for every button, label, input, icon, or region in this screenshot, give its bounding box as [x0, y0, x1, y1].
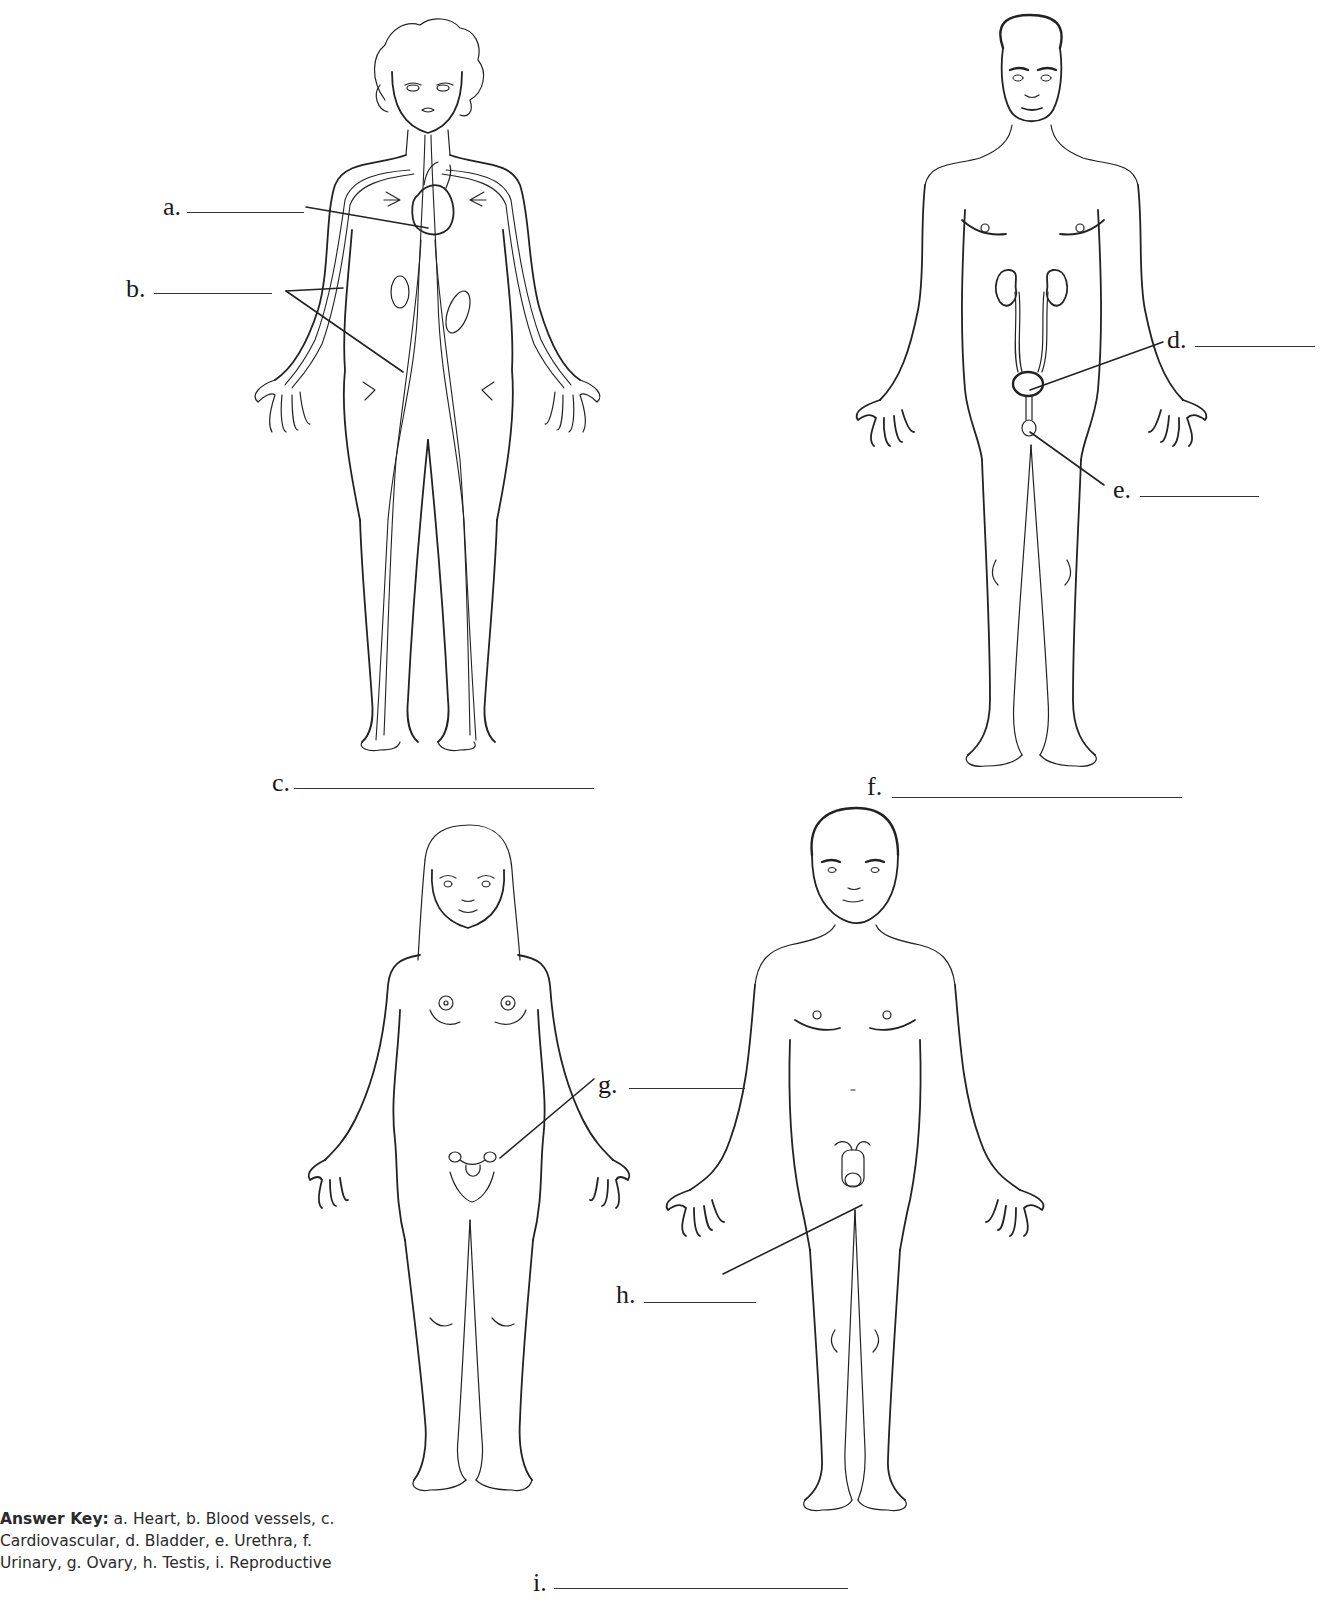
- answer-blank-h[interactable]: [644, 1302, 756, 1303]
- urinary-figure: [857, 15, 1207, 766]
- answer-blank-f[interactable]: [892, 797, 1182, 798]
- male-reproductive-figure: [667, 808, 1044, 1511]
- label-e: e.: [1113, 477, 1131, 503]
- answer-blank-i[interactable]: [554, 1588, 848, 1589]
- label-b: b.: [126, 276, 146, 302]
- cardiovascular-figure: [255, 19, 600, 751]
- answer-blank-e[interactable]: [1140, 496, 1259, 497]
- answer-blank-d[interactable]: [1195, 346, 1315, 347]
- label-a: a.: [163, 194, 181, 220]
- answer-blank-g[interactable]: [629, 1088, 745, 1089]
- label-i: i.: [533, 1570, 547, 1596]
- female-reproductive-figure: [309, 825, 630, 1491]
- label-d: d.: [1167, 327, 1187, 353]
- leader-b1: [286, 288, 343, 291]
- answer-key: Answer Key: a. Heart, b. Blood vessels, …: [0, 1508, 340, 1574]
- label-h: h.: [616, 1282, 636, 1308]
- leader-e: [1030, 432, 1104, 485]
- label-f: f.: [867, 774, 882, 800]
- answer-blank-c[interactable]: [294, 788, 594, 789]
- label-c: c.: [272, 770, 290, 796]
- leader-h: [723, 1205, 862, 1274]
- anatomy-illustrations: [0, 0, 1328, 1611]
- answer-blank-a[interactable]: [187, 212, 304, 213]
- label-g: g.: [598, 1072, 618, 1098]
- leader-d: [1030, 342, 1163, 390]
- answer-key-title: Answer Key:: [0, 1510, 109, 1528]
- leader-g: [500, 1079, 594, 1158]
- leader-a: [306, 207, 428, 228]
- answer-blank-b[interactable]: [154, 293, 272, 294]
